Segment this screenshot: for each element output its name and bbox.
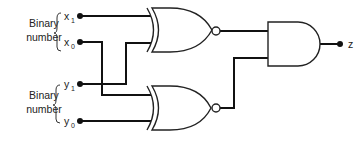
svg-text:y: y [64,115,70,127]
and-gate-icon [268,22,320,66]
input-label-y0: y 0 [64,115,75,129]
output-label: z [348,38,353,50]
svg-text:0: 0 [71,43,75,50]
circuit-svg: Binary number Binary number x 1 x 0 y 1 … [0,0,364,142]
wire-y1 [80,43,150,84]
xnor-gate-1-icon [147,8,220,52]
svg-text:0: 0 [71,122,75,129]
group-y-line1: Binary [29,89,60,101]
input-label-x0: x 0 [64,36,75,50]
svg-text:x: x [64,36,70,48]
svg-text:x: x [64,10,70,22]
group-y-line2: number [26,103,62,115]
svg-text:1: 1 [71,17,75,24]
group-x-line1: Binary [29,17,60,29]
svg-text:1: 1 [71,85,75,92]
wire-xnor2-and [221,58,268,108]
svg-text:y: y [64,78,70,90]
input-label-y1: y 1 [64,78,75,92]
input-label-x1: x 1 [64,10,75,24]
wire-x0 [80,42,150,95]
logic-circuit-diagram: Binary number Binary number x 1 x 0 y 1 … [0,0,364,142]
output-terminal-icon [337,41,343,47]
xnor-gate-2-icon [147,86,220,130]
group-label-y: Binary number [26,89,62,115]
